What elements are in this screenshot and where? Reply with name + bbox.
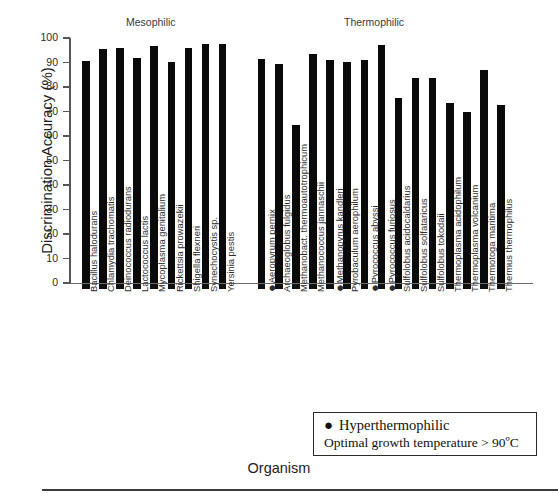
- y-axis-tick-label: 0: [32, 277, 58, 288]
- x-axis-category-label: Sulfolobus acidocaldarius: [402, 186, 411, 292]
- hyperthermophilic-dot-icon: ●: [332, 284, 347, 292]
- y-axis-tick-label: 100: [32, 32, 58, 43]
- hyperthermophilic-dot-icon: ●: [367, 284, 382, 292]
- y-axis-tick-label: 80: [32, 81, 58, 92]
- y-axis-tick-label: 70: [32, 106, 58, 117]
- y-axis-tick: [63, 184, 70, 185]
- x-axis-category-label-text: Chlamydia trachomatis: [105, 197, 116, 292]
- x-axis-category-label: ●Methanopyrus kandleri: [333, 188, 346, 292]
- y-axis-tick-label: 40: [32, 179, 58, 190]
- x-axis-category-label-text: Thermoplasma acidophilum: [452, 177, 463, 292]
- y-axis-tick-label: 60: [32, 130, 58, 141]
- y-axis-tick: [63, 258, 70, 259]
- x-axis-category-label-text: Methanobact. thermoautotrophicum: [298, 144, 309, 292]
- x-axis-category-label-text: Pyrococcus furiosus: [386, 199, 397, 283]
- y-axis-tick-label: 10: [32, 253, 58, 264]
- x-axis-category-label-text: Sulfolobus acidocaldarius: [401, 186, 412, 292]
- y-axis-tick: [63, 62, 70, 63]
- x-axis-category-label: Thermotoga maritima: [487, 203, 496, 292]
- x-axis-category-label: Mycoplasma genitalium: [157, 194, 166, 292]
- x-axis-category-label: Pyrobaculum aerophilum: [350, 188, 359, 292]
- x-axis-category-label: Chlamydia trachomatis: [106, 197, 115, 292]
- y-axis-tick: [63, 282, 70, 283]
- y-axis-tick: [63, 37, 70, 38]
- legend-label-hyperthermophilic: Hyperthermophilic: [339, 417, 449, 433]
- x-axis-category-label-text: Bacillus halodurans: [88, 211, 99, 292]
- x-axis-category-label-text: Sulfolobus solfataricus: [418, 198, 429, 292]
- x-axis-category-label-text: Thermotoga maritima: [486, 203, 497, 292]
- x-axis-title: Organism: [0, 460, 558, 476]
- bottom-divider-rule: [42, 489, 558, 491]
- x-axis-category-label: Archaeoglobus fulgidus: [282, 195, 291, 292]
- x-axis-category-label-text: Synechocystis sp.: [208, 217, 219, 292]
- x-axis-category-label: Thermoplasma volcanium: [470, 185, 479, 292]
- group-header-mesophilic: Mesophilic: [126, 16, 176, 28]
- x-axis-category-label-text: Lactococcus lactis: [139, 216, 150, 292]
- x-axis-category-label: Rickettsia prowazekii: [175, 204, 184, 292]
- legend-box: ●Hyperthermophilic Optimal growth temper…: [313, 412, 537, 456]
- x-axis-category-label-text: Shigella flexneri: [191, 226, 202, 292]
- hyperthermophilic-dot-icon: ●: [264, 284, 279, 292]
- x-axis-category-label-text: Yersinia pestis: [225, 232, 236, 292]
- group-header-thermophilic: Thermophilic: [344, 16, 404, 28]
- x-axis-category-label-text: Methanococcus jannaschii: [315, 182, 326, 292]
- x-axis-category-label: Bacillus halodurans: [89, 211, 98, 292]
- x-axis-category-label: Sulfolobus solfataricus: [419, 198, 428, 292]
- x-axis-category-label-text: Aeropyrum pernix: [266, 209, 277, 283]
- x-axis-category-label-text: Pyrobaculum aerophilum: [349, 188, 360, 292]
- hyperthermophilic-dot-icon: ●: [384, 284, 399, 292]
- y-axis-tick-label: 20: [32, 228, 58, 239]
- y-axis-tick: [63, 135, 70, 136]
- y-axis-tick: [63, 86, 70, 87]
- x-axis-category-label-text: Thermoplasma volcanium: [469, 185, 480, 292]
- x-axis-category-label-text: Rickettsia prowazekii: [174, 204, 185, 292]
- x-axis-category-label: Methanobact. thermoautotrophicum: [299, 144, 308, 292]
- x-axis-category-label: Yersinia pestis: [226, 232, 235, 292]
- x-axis-category-label: ●Pyrococcus furiosus: [385, 199, 398, 292]
- bar: [361, 60, 369, 283]
- x-axis-category-label: Deinococcus radiodurans: [123, 186, 132, 292]
- x-axis-category-label: Lactococcus lactis: [140, 216, 149, 292]
- legend-marker-dot: ●: [324, 417, 333, 433]
- x-axis-category-label-text: Mycoplasma genitalium: [156, 194, 167, 292]
- legend-note-temperature: Optimal growth temperature > 90ºC: [324, 435, 528, 451]
- x-axis-category-label-text: Archaeoglobus fulgidus: [281, 195, 292, 292]
- y-axis-tick-label: 50: [32, 155, 58, 166]
- y-axis-tick: [63, 209, 70, 210]
- x-axis-category-label: Shigella flexneri: [192, 226, 201, 292]
- x-axis-category-label: Sulfolobus tokodaii: [436, 213, 445, 292]
- x-axis-category-label-text: Thermus thermophilus: [503, 199, 514, 292]
- x-axis-category-label: Thermoplasma acidophilum: [453, 177, 462, 292]
- legend-entry-hyperthermophilic: ●Hyperthermophilic: [324, 417, 528, 434]
- x-axis-category-label-text: Pyrococcus abyssi: [369, 206, 380, 284]
- x-axis-category-label-text: Sulfolobus tokodaii: [435, 213, 446, 292]
- y-axis-tick: [63, 160, 70, 161]
- x-axis-category-label: ●Aeropyrum pernix: [265, 209, 278, 292]
- x-axis-category-label: Thermus thermophilus: [504, 199, 513, 292]
- x-axis-category-label: Synechocystis sp.: [209, 217, 218, 292]
- y-axis-tick: [63, 111, 70, 112]
- y-axis-tick-label: 90: [32, 57, 58, 68]
- x-axis-category-label: ●Pyrococcus abyssi: [368, 206, 381, 293]
- x-axis-category-label: Methanococcus jannaschii: [316, 182, 325, 292]
- y-axis-tick: [63, 233, 70, 234]
- x-axis-category-label-text: Methanopyrus kandleri: [334, 188, 345, 283]
- x-axis-category-label-text: Deinococcus radiodurans: [122, 186, 133, 292]
- y-axis-tick-label: 30: [32, 204, 58, 215]
- bar-chart-figure: Mesophilic Thermophilic Discrimination A…: [0, 0, 558, 498]
